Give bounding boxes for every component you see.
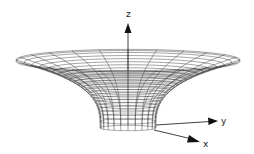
x-axis-label: x <box>203 139 209 149</box>
y-axis-arrowhead-icon <box>208 118 218 126</box>
y-axis-label: y <box>221 116 227 126</box>
y-axis-line <box>156 122 210 126</box>
mesh-radial-line <box>156 60 240 128</box>
z-axis-label: z <box>126 9 131 19</box>
mesh-radial-line <box>16 60 100 128</box>
x-axis-arrowhead-icon <box>187 135 200 143</box>
mesh-radial-line <box>20 57 101 127</box>
funnel-diagram: z y x <box>0 0 254 154</box>
x-axis-line <box>154 130 192 139</box>
z-axis-arrowhead-icon <box>125 23 132 33</box>
